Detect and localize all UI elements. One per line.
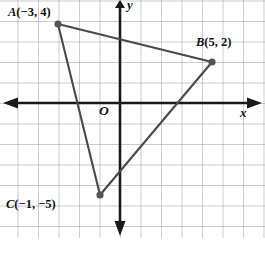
point-a-label: A(−3, 4) xyxy=(8,6,51,19)
point-c-coords: (−1, −5) xyxy=(14,197,55,211)
point-b-label: B(5, 2) xyxy=(196,36,231,49)
point-a-marker xyxy=(54,20,61,27)
origin-label: O xyxy=(99,104,109,118)
point-b-coords: (5, 2) xyxy=(204,35,231,49)
coordinate-plane-figure: A(−3, 4) B(5, 2) C(−1, −5) O x y xyxy=(0,0,265,254)
y-axis-label: y xyxy=(127,0,133,11)
point-a-coords: (−3, 4) xyxy=(16,5,50,19)
point-b-marker xyxy=(208,58,215,65)
point-c-label: C(−1, −5) xyxy=(6,198,56,211)
point-c-marker xyxy=(96,191,103,198)
x-axis-label: x xyxy=(240,106,247,119)
